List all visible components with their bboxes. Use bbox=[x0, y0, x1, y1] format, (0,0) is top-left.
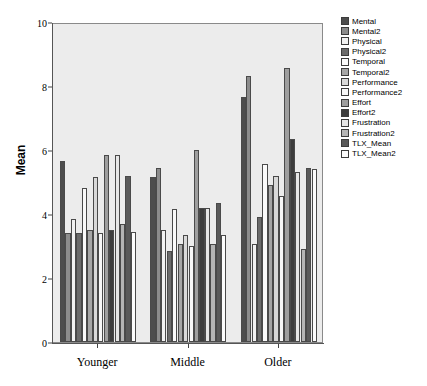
x-tick-mark bbox=[188, 344, 189, 348]
y-tick-mark bbox=[48, 343, 52, 344]
legend-item: TLX_Mean bbox=[341, 138, 427, 148]
bar bbox=[284, 68, 289, 342]
legend-item: Frustration bbox=[341, 118, 427, 128]
legend-label: TLX_Mean2 bbox=[352, 149, 396, 158]
legend-label: Performance2 bbox=[352, 88, 402, 97]
bar bbox=[109, 230, 114, 342]
legend-label: Physical bbox=[352, 37, 382, 46]
legend-item: Physical bbox=[341, 36, 427, 46]
bars-layer bbox=[53, 24, 322, 342]
bar-chart: 0246810 YoungerMiddleOlder Mean MentalMe… bbox=[0, 0, 427, 386]
bar bbox=[290, 139, 295, 342]
legend-swatch-icon bbox=[341, 139, 349, 147]
bar bbox=[65, 233, 70, 342]
x-tick-label: Older bbox=[264, 355, 291, 370]
legend-label: Mental2 bbox=[352, 27, 380, 36]
bar bbox=[87, 230, 92, 342]
legend-label: Temporal bbox=[352, 57, 385, 66]
bar bbox=[194, 150, 199, 342]
bar bbox=[71, 219, 76, 342]
bar bbox=[268, 185, 273, 342]
bar bbox=[156, 168, 161, 342]
y-axis-line bbox=[52, 23, 53, 343]
legend-label: Effort2 bbox=[352, 108, 375, 117]
bar bbox=[131, 232, 136, 342]
bar bbox=[273, 176, 278, 342]
y-tick-mark bbox=[48, 23, 52, 24]
legend-swatch-icon bbox=[341, 68, 349, 76]
legend-swatch-icon bbox=[341, 109, 349, 117]
x-tick-mark bbox=[97, 344, 98, 348]
y-tick-mark bbox=[48, 279, 52, 280]
bar bbox=[150, 177, 155, 342]
legend: MentalMental2PhysicalPhysical2TemporalTe… bbox=[341, 16, 427, 159]
bar bbox=[210, 244, 215, 342]
bar bbox=[221, 235, 226, 342]
bar bbox=[306, 168, 311, 342]
bar bbox=[312, 169, 317, 342]
legend-swatch-icon bbox=[341, 17, 349, 25]
legend-item: Mental2 bbox=[341, 26, 427, 36]
legend-label: Mental bbox=[352, 17, 376, 26]
legend-swatch-icon bbox=[341, 129, 349, 137]
bar bbox=[125, 176, 130, 342]
legend-label: Temporal2 bbox=[352, 68, 389, 77]
x-tick-label: Younger bbox=[77, 355, 118, 370]
legend-swatch-icon bbox=[341, 48, 349, 56]
bar bbox=[252, 244, 257, 342]
legend-label: Physical2 bbox=[352, 47, 386, 56]
legend-label: Effort bbox=[352, 98, 371, 107]
legend-label: Performance bbox=[352, 78, 398, 87]
y-tick-mark bbox=[48, 215, 52, 216]
bar bbox=[241, 97, 246, 342]
legend-swatch-icon bbox=[341, 37, 349, 45]
legend-item: Performance bbox=[341, 77, 427, 87]
legend-label: TLX_Mean bbox=[352, 139, 391, 148]
bar bbox=[279, 196, 284, 342]
legend-label: Frustration2 bbox=[352, 129, 395, 138]
plot-area bbox=[52, 23, 323, 343]
bar bbox=[115, 155, 120, 342]
legend-swatch-icon bbox=[341, 27, 349, 35]
legend-swatch-icon bbox=[341, 119, 349, 127]
legend-item: Mental bbox=[341, 16, 427, 26]
legend-item: Temporal bbox=[341, 57, 427, 67]
bar bbox=[161, 230, 166, 342]
legend-swatch-icon bbox=[341, 88, 349, 96]
legend-swatch-icon bbox=[341, 58, 349, 66]
bar bbox=[172, 209, 177, 342]
bar bbox=[301, 249, 306, 342]
legend-swatch-icon bbox=[341, 150, 349, 158]
y-axis-title: Mean bbox=[14, 145, 28, 176]
x-tick-label: Middle bbox=[170, 355, 205, 370]
bar bbox=[120, 224, 125, 342]
bar bbox=[246, 76, 251, 342]
bar bbox=[98, 233, 103, 342]
legend-item: Temporal2 bbox=[341, 67, 427, 77]
bar bbox=[216, 203, 221, 342]
bar bbox=[178, 244, 183, 342]
x-tick-mark bbox=[278, 344, 279, 348]
legend-item: Effort2 bbox=[341, 108, 427, 118]
legend-item: Physical2 bbox=[341, 47, 427, 57]
legend-item: Effort bbox=[341, 98, 427, 108]
bar bbox=[104, 155, 109, 342]
legend-swatch-icon bbox=[341, 78, 349, 86]
bar bbox=[199, 208, 204, 342]
legend-item: Frustration2 bbox=[341, 128, 427, 138]
y-tick-mark bbox=[48, 151, 52, 152]
legend-label: Frustration bbox=[352, 118, 390, 127]
legend-swatch-icon bbox=[341, 99, 349, 107]
legend-item: Performance2 bbox=[341, 87, 427, 97]
bar bbox=[262, 164, 267, 342]
bar bbox=[183, 235, 188, 342]
bar bbox=[82, 188, 87, 342]
legend-item: TLX_Mean2 bbox=[341, 148, 427, 158]
y-tick-mark bbox=[48, 87, 52, 88]
bar bbox=[257, 217, 262, 342]
bar bbox=[93, 177, 98, 342]
